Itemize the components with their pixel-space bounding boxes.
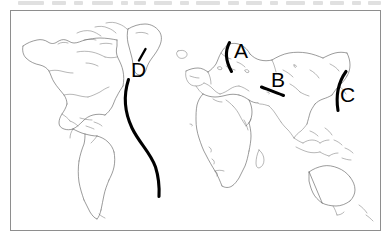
marker-label-b: B <box>271 69 285 90</box>
marker-label-a: A <box>234 40 248 61</box>
marker-stroke-a <box>227 43 232 72</box>
marker-stroke-d <box>125 80 159 197</box>
figure-page: A B C D <box>0 0 391 243</box>
marker-label-d: D <box>131 59 146 80</box>
marker-strokes-layer <box>0 0 391 243</box>
marker-label-c: C <box>340 84 355 105</box>
